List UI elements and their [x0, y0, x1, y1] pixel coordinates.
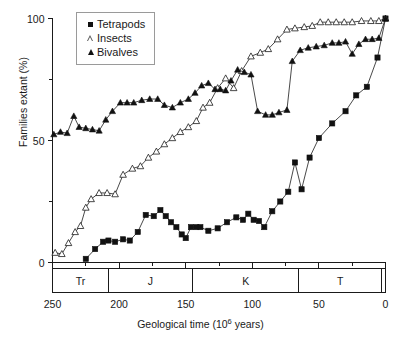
data-point-bivalves	[376, 35, 382, 41]
filled-triangle-icon	[84, 49, 97, 55]
data-point-insects	[120, 171, 127, 177]
x-axis-title-text: Geological time (106 years)	[137, 318, 264, 330]
data-point-tetrapods	[251, 217, 256, 222]
open-triangle-glyph	[87, 35, 94, 41]
data-point-insects	[248, 53, 255, 59]
data-point-bivalves	[205, 80, 211, 86]
data-point-insects	[145, 154, 152, 160]
data-point-bivalves	[255, 108, 261, 114]
data-point-insects	[169, 135, 176, 141]
filled-triangle-glyph	[88, 49, 94, 55]
x-axis-tick-label: 150	[177, 298, 195, 310]
data-point-insects	[309, 22, 316, 28]
legend-item-insects: Insects	[84, 31, 145, 45]
data-point-bivalves	[356, 41, 362, 47]
data-point-bivalves	[76, 124, 82, 130]
data-point-insects	[104, 190, 111, 196]
y-axis-tick-label: 100	[27, 13, 45, 25]
data-point-bivalves	[349, 51, 355, 57]
legend-label: Insects	[97, 32, 132, 45]
data-point-tetrapods	[375, 55, 380, 60]
data-point-insects	[77, 223, 84, 229]
open-triangle-icon	[84, 35, 97, 41]
data-point-tetrapods	[143, 212, 148, 217]
data-point-bivalves	[235, 67, 241, 73]
data-point-tetrapods	[174, 225, 179, 230]
data-point-insects	[257, 49, 264, 55]
data-point-insects	[193, 118, 200, 124]
data-point-tetrapods	[364, 84, 369, 89]
data-point-tetrapods	[188, 225, 193, 230]
data-point-tetrapods	[307, 155, 312, 160]
y-axis-tick-label: 0	[39, 257, 45, 269]
data-point-tetrapods	[183, 236, 188, 241]
data-point-bivalves	[71, 113, 77, 119]
x-axis-tick-label: 100	[244, 298, 262, 310]
data-point-tetrapods	[215, 226, 220, 231]
data-point-tetrapods	[234, 215, 239, 220]
data-point-tetrapods	[83, 256, 88, 261]
chart-canvas: TrJKT 050100250200150100500	[0, 0, 401, 337]
legend: TetrapodsInsectsBivalves	[76, 12, 155, 65]
x-axis-tick-label: 200	[110, 298, 128, 310]
data-point-insects	[177, 129, 184, 135]
data-point-tetrapods	[224, 220, 229, 225]
y-axis-title-text: Families extant (%)	[17, 57, 29, 147]
data-point-tetrapods	[256, 218, 261, 223]
period-label-t: T	[337, 275, 344, 287]
data-point-tetrapods	[299, 187, 304, 192]
x-axis-tick-label: 50	[313, 298, 325, 310]
data-point-insects	[88, 196, 95, 202]
data-point-tetrapods	[93, 246, 98, 251]
data-point-bivalves	[284, 107, 290, 113]
data-point-bivalves	[342, 38, 348, 44]
data-point-tetrapods	[278, 199, 283, 204]
figure-container: TrJKT 050100250200150100500 TetrapodsIns…	[0, 0, 401, 337]
data-point-bivalves	[57, 129, 63, 135]
data-point-tetrapods	[151, 214, 156, 219]
data-point-tetrapods	[127, 238, 132, 243]
data-point-tetrapods	[120, 237, 125, 242]
legend-item-tetrapods: Tetrapods	[84, 17, 145, 31]
filled-square-glyph	[88, 22, 93, 27]
data-point-tetrapods	[106, 238, 111, 243]
data-point-tetrapods	[206, 228, 211, 233]
data-point-tetrapods	[246, 211, 251, 216]
data-point-tetrapods	[163, 214, 168, 219]
data-point-insects	[185, 124, 192, 130]
data-point-tetrapods	[240, 217, 245, 222]
legend-label: Bivalves	[97, 46, 138, 59]
legend-label: Tetrapods	[97, 18, 145, 31]
data-point-insects	[200, 104, 207, 110]
data-point-tetrapods	[168, 220, 173, 225]
data-point-tetrapods	[354, 93, 359, 98]
geological-period-bar: TrJKT	[53, 269, 386, 293]
data-point-bivalves	[177, 99, 183, 105]
data-point-tetrapods	[158, 207, 163, 212]
data-point-tetrapods	[292, 160, 297, 165]
data-point-insects	[65, 240, 72, 246]
data-point-tetrapods	[270, 209, 275, 214]
y-axis-tick-label: 50	[33, 135, 45, 147]
period-label-tr: Tr	[76, 275, 86, 287]
period-label-k: K	[242, 275, 249, 287]
period-bar-outline	[53, 269, 386, 293]
data-point-tetrapods	[316, 135, 321, 140]
data-point-tetrapods	[262, 225, 267, 230]
x-axis-tick-label: 250	[44, 298, 62, 310]
data-point-insects	[161, 141, 168, 147]
data-point-tetrapods	[135, 229, 140, 234]
data-point-insects	[96, 190, 103, 196]
data-point-tetrapods	[113, 239, 118, 244]
x-axis-title: Geological time (106 years)	[0, 316, 401, 330]
legend-item-bivalves: Bivalves	[84, 45, 145, 59]
data-point-insects	[83, 204, 90, 210]
y-axis-title: Families extant (%)	[17, 32, 29, 172]
data-point-insects	[206, 99, 213, 105]
filled-square-icon	[84, 22, 97, 27]
data-point-tetrapods	[286, 189, 291, 194]
data-point-tetrapods	[343, 109, 348, 114]
data-point-tetrapods	[330, 121, 335, 126]
period-label-j: J	[148, 275, 153, 287]
data-point-insects	[222, 75, 229, 81]
